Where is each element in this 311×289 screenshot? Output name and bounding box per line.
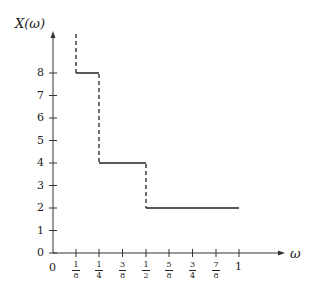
y-tick-label-1: 1 <box>30 225 44 236</box>
y-tick-label-7: 7 <box>30 90 44 101</box>
x-axis-arrow-icon <box>278 251 285 256</box>
y-tick-label-3: 3 <box>30 180 44 191</box>
y-tick-label-5: 5 <box>30 135 44 146</box>
x-tick-label-1-2: 12 <box>140 261 152 280</box>
x-tick-label-1: 1 <box>235 261 242 272</box>
y-tick-label-8: 8 <box>30 67 44 78</box>
plot-area <box>0 0 311 289</box>
y-tick-label-4: 4 <box>30 157 44 168</box>
x-tick-label-3-8: 38 <box>117 261 129 280</box>
y-axis-arrow-icon <box>51 31 56 38</box>
y-tick-label-6: 6 <box>30 112 44 123</box>
y-tick-label-2: 2 <box>30 202 44 213</box>
y-axis-title: X(ω) <box>15 16 45 31</box>
x-tick-label-0: 0 <box>49 262 56 273</box>
y-tick-label-0: 0 <box>30 247 44 258</box>
x-axis-title: ω <box>290 246 301 261</box>
x-tick-label-3-4: 34 <box>187 261 199 280</box>
x-tick-label-7-8: 78 <box>210 261 222 280</box>
x-tick-label-5-8: 58 <box>163 261 175 280</box>
series-step-function <box>76 34 239 208</box>
x-tick-label-1-4: 14 <box>93 261 105 280</box>
x-tick-label-1-8: 18 <box>70 261 82 280</box>
